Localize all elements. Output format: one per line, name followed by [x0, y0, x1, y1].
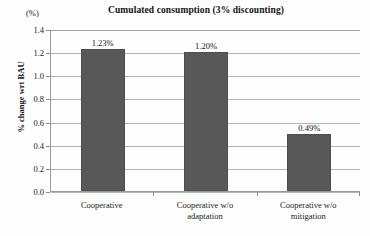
- category-label: Cooperative w/omitigation: [262, 200, 354, 222]
- bar-value-label: 0.49%: [298, 123, 320, 133]
- gridline: [51, 30, 360, 31]
- y-tick-label: 0.6: [22, 118, 44, 128]
- chart-screenshot: Cumulated consumption (3% discounting) (…: [0, 0, 370, 236]
- bar: [184, 52, 228, 191]
- x-axis-tick-marks: [50, 192, 360, 197]
- bar-value-label: 1.20%: [195, 41, 217, 51]
- y-tick-label: 1.0: [22, 71, 44, 81]
- plot-area: 1.23%1.20%0.49%: [50, 30, 360, 192]
- category-label-line: adaptation: [159, 211, 251, 222]
- y-tick-label: 0.4: [22, 141, 44, 151]
- y-axis-unit-label: (%): [26, 8, 39, 18]
- category-label-line: Cooperative w/o: [159, 200, 251, 211]
- x-tick-mark: [257, 192, 258, 196]
- bar: [81, 49, 125, 191]
- x-tick-mark: [359, 192, 360, 196]
- category-label-line: mitigation: [262, 211, 354, 222]
- y-tick-label: 1.4: [22, 25, 44, 35]
- x-tick-mark: [153, 192, 154, 196]
- y-tick-label: 0.2: [22, 164, 44, 174]
- y-tick-label: 0.0: [22, 187, 44, 197]
- category-label: Cooperative: [56, 200, 148, 211]
- y-tick-label: 0.8: [22, 94, 44, 104]
- y-tick-label: 1.2: [22, 48, 44, 58]
- category-label: Cooperative w/oadaptation: [159, 200, 251, 222]
- bar: [287, 134, 331, 191]
- bar-value-label: 1.23%: [92, 38, 114, 48]
- category-label-line: Cooperative w/o: [262, 200, 354, 211]
- chart-title: Cumulated consumption (3% discounting): [80, 5, 312, 15]
- category-label-line: Cooperative: [56, 200, 148, 211]
